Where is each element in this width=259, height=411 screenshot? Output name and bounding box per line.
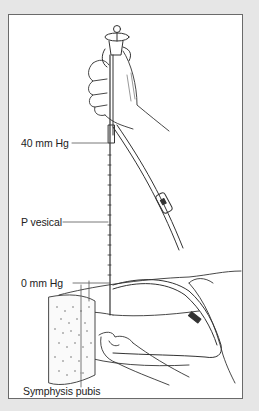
drainage-tubing — [113, 125, 183, 250]
patient-drape — [49, 295, 95, 385]
label-0-mmhg: 0 mm Hg — [21, 278, 63, 289]
manometer-column — [108, 55, 115, 315]
illustration — [9, 15, 242, 398]
upper-hand — [89, 51, 170, 131]
catheter-loop — [113, 280, 221, 358]
lower-hand — [99, 332, 189, 385]
figure-frame: 40 mm Hg P vesical 0 mm Hg Symphysis pub… — [8, 14, 243, 399]
label-symphysis-pubis: Symphysis pubis — [23, 386, 100, 397]
stopcock-icon — [102, 26, 130, 68]
label-p-vesical: P vesical — [21, 217, 62, 228]
label-40-mmhg: 40 mm Hg — [21, 138, 69, 149]
